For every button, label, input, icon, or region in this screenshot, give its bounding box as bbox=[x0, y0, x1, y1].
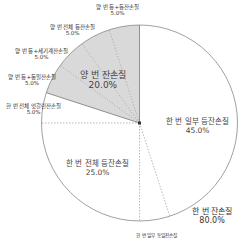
label-left2: 양 번 등+동일잔손질5.0% bbox=[8, 74, 56, 87]
pie-center-marker bbox=[138, 122, 141, 125]
label-top2: 양 번 전체 등잔손질5.0% bbox=[50, 24, 95, 37]
label-group-outer: 한 번 잔손질80.0% bbox=[192, 207, 232, 225]
label-right-inner: 한 번 일부 등잔손질45.0% bbox=[166, 118, 229, 135]
label-bottom: 한 번 일부 동일잔손질 bbox=[136, 233, 177, 239]
label-left1: 양 번 등+세기계잔손질5.0% bbox=[15, 48, 68, 61]
label-group-shaded: 양 번 잔손질20.0% bbox=[80, 70, 126, 91]
label-top1: 양 번 등+등잔손질5.0% bbox=[96, 4, 139, 17]
label-left3: 한 번 전체 엇갈린잔손질5.0% bbox=[6, 103, 61, 116]
label-lower-inner: 한 번 전체 등잔손질25.0% bbox=[66, 160, 129, 177]
